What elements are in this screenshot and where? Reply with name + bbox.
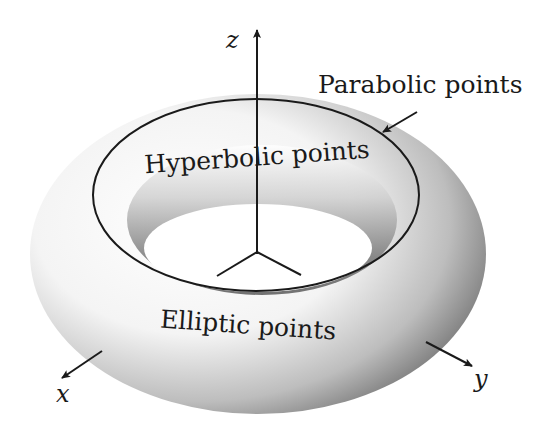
y-axis-label: y bbox=[473, 365, 488, 393]
torus-diagram: z x y Parabolic points Hyperbolic points… bbox=[0, 0, 546, 431]
z-axis-label: z bbox=[225, 26, 239, 54]
parabolic-label: Parabolic points bbox=[318, 70, 522, 99]
x-axis-label: x bbox=[56, 380, 70, 408]
